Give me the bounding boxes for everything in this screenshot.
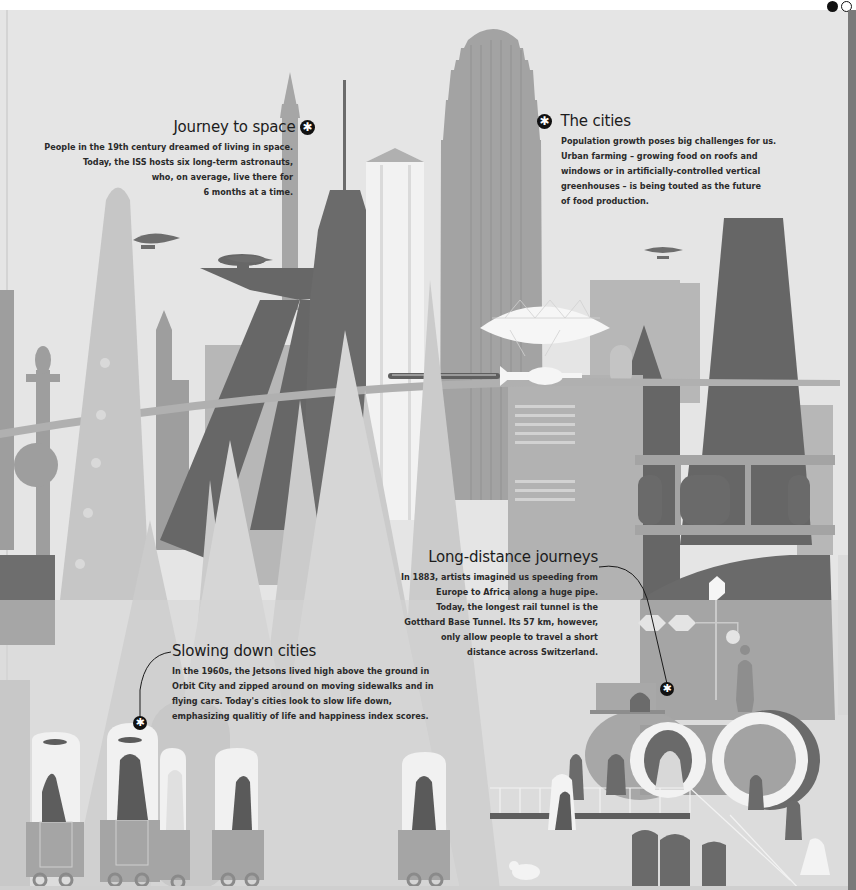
top-margin: [0, 0, 856, 10]
callout-body: People in the 19th century dreamed of li…: [20, 140, 293, 200]
callout-slowing-down-cities: Slowing down cities In the 1960s, the Je…: [172, 642, 492, 724]
asterisk-pin-icon: ✱: [660, 682, 674, 696]
illustrated-page: Journey to space ✱ People in the 19th ce…: [0, 0, 856, 890]
callout-body: In the 1960s, the Jetsons lived high abo…: [172, 664, 492, 724]
page-dot-active[interactable]: [827, 1, 838, 12]
callout-title: Slowing down cities: [172, 642, 492, 660]
asterisk-pin-icon: ✱: [133, 716, 147, 730]
callout-body: Population growth poses big challenges f…: [561, 134, 787, 209]
callout-title: Journey to space ✱: [20, 118, 315, 136]
callout-title: Long-distance journeys: [420, 548, 598, 566]
callout-journey-to-space: Journey to space ✱ People in the 19th ce…: [20, 118, 315, 200]
asterisk-bullet-icon: ✱: [537, 114, 552, 129]
callout-title: ✱ The cities: [537, 112, 787, 130]
asterisk-bullet-icon: ✱: [300, 120, 315, 135]
page-spine-edge: [848, 10, 856, 890]
callout-the-cities: ✱ The cities Population growth poses big…: [537, 112, 787, 209]
